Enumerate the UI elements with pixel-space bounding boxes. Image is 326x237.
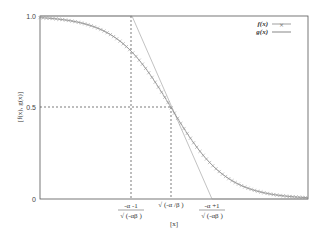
legend-f-label: f(x) [258,20,269,28]
xtick-2: √ (-α /β ) [158,201,184,209]
xtick-1-denominator: √ (-αβ ) [120,212,142,220]
xtick-1-numerator: -α -1 [124,202,138,210]
xtick-3-numerator: -α +1 [204,202,220,210]
legend-g-label: g(x) [255,28,268,36]
plot-frame [40,16,308,199]
legend-f-marker-icon: × [279,21,284,28]
chart: 1.0 0.5 0 [f(x), g(x)] -α -1 √ (-αβ ) √ … [0,0,326,237]
y-axis-label: [f(x), g(x)] [16,92,24,122]
ytick-1: 1.0 [26,13,36,20]
xtick-3-denominator: √ (-αβ ) [201,212,223,220]
ytick-0: 0 [32,196,36,203]
series-f-line [38,16,308,199]
ytick-05: 0.5 [26,104,36,111]
legend: f(x) × g(x) [255,20,291,36]
series-g-line [40,16,308,199]
x-axis-label: [x] [170,220,178,228]
